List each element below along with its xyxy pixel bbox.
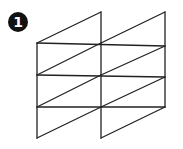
diagonal-line (101, 77, 165, 107)
diagonal-line (101, 107, 165, 138)
diagram-lines (37, 12, 165, 138)
diagonal-line (101, 12, 165, 43)
sheared-grid-diagram (0, 0, 183, 149)
diagonal-line (101, 46, 165, 75)
diagonal-line (37, 12, 101, 43)
diagonal-line (37, 107, 101, 138)
diagonal-line (37, 43, 101, 75)
diagonal-line (37, 75, 101, 107)
